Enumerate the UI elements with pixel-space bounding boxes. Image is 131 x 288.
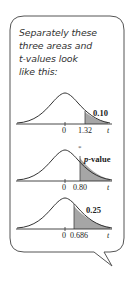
chart-2-area-label: p-value xyxy=(83,154,111,164)
chart-1-tick-critical: 1.32 xyxy=(78,126,92,135)
chart-2-tick-critical: 0.80 xyxy=(73,183,87,192)
caption-line: three areas and xyxy=(19,39,119,52)
chart-1-tick-zero: 0 xyxy=(62,126,66,135)
chart-1-area-label: 0.10 xyxy=(93,108,108,118)
caption-line: like this: xyxy=(19,65,119,78)
caption-line: t-values look xyxy=(19,52,119,65)
chart-2-marker: * xyxy=(78,144,82,152)
chart-3-tick-zero: 0 xyxy=(62,231,66,240)
caption-line: Separately these xyxy=(19,26,119,39)
speech-bubble-figure: 0 1.32 t 0.10 * p-value 0 0.80 t 0.25 xyxy=(0,0,131,288)
chart-3-area-label: 0.25 xyxy=(86,205,101,215)
bubble-caption: Separately these three areas and t-value… xyxy=(19,26,119,78)
chart-2-tick-zero: 0 xyxy=(62,183,66,192)
chart-3-tick-critical: 0.686 xyxy=(70,231,88,240)
